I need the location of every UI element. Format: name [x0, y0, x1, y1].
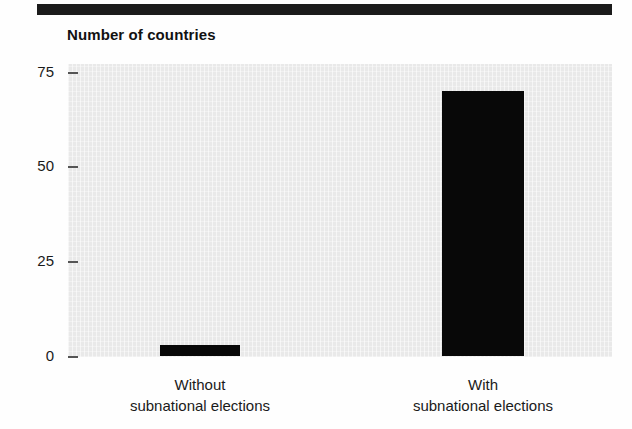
y-tick-label-25: 25 — [37, 251, 54, 271]
plot-area — [68, 64, 612, 357]
y-tick-mark-0 — [68, 356, 78, 358]
x-axis-label-with-subnational-elections: With subnational elections — [383, 374, 583, 416]
y-tick-label-50: 50 — [37, 156, 54, 176]
x-axis-label-line1: With — [383, 374, 583, 395]
x-axis-label-without-subnational-elections: Without subnational elections — [100, 374, 300, 416]
y-tick-label-75: 75 — [37, 62, 54, 82]
y-tick-label-0: 0 — [46, 346, 54, 366]
x-axis-label-line2: subnational elections — [100, 395, 300, 416]
bar-chart-figure: Number of countries 75 50 25 0 Without s… — [0, 0, 632, 429]
header-rule-decoration — [37, 4, 612, 15]
y-tick-mark-50 — [68, 166, 78, 168]
bar-with-subnational-elections — [442, 91, 524, 356]
bar-without-subnational-elections — [160, 345, 240, 356]
plot-background-texture — [68, 64, 612, 357]
x-axis-label-line2: subnational elections — [383, 395, 583, 416]
chart-title: Number of countries — [67, 26, 216, 43]
y-tick-mark-25 — [68, 261, 78, 263]
x-axis-label-line1: Without — [100, 374, 300, 395]
y-tick-mark-75 — [68, 72, 78, 74]
